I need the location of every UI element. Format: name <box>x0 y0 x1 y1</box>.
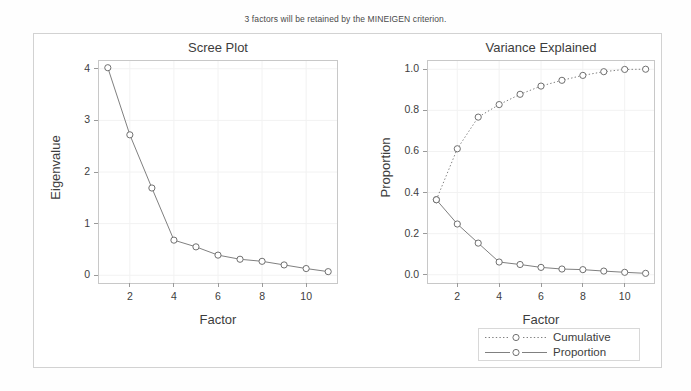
y-tick-label: 0.0 <box>375 268 419 280</box>
y-tick-mark <box>423 274 427 275</box>
mineigen-note: 3 factors will be retained by the MINEIG… <box>0 14 691 24</box>
y-tick-label: 0.2 <box>375 227 419 239</box>
x-tick-label: 4 <box>154 290 194 302</box>
x-tick-label: 4 <box>479 290 519 302</box>
legend-item-proportion[interactable]: Proportion <box>479 345 641 360</box>
y-tick-label: 4 <box>46 62 90 74</box>
scree-x-axis-label: Factor <box>98 312 338 327</box>
variance-x-axis-label: Factor <box>427 312 655 327</box>
x-tick-label: 2 <box>437 290 477 302</box>
x-tick-label: 6 <box>198 290 238 302</box>
y-tick-mark <box>423 233 427 234</box>
variance-plot-area <box>427 60 655 284</box>
legend-symbol-cumulative <box>485 330 547 345</box>
y-tick-label: 3 <box>46 113 90 125</box>
y-tick-mark <box>423 69 427 70</box>
variance-y-axis-label: Proportion <box>378 108 393 228</box>
legend-label-proportion: Proportion <box>553 345 606 360</box>
x-tick-label: 10 <box>286 290 326 302</box>
legend-symbol-proportion <box>485 345 547 360</box>
x-tick-label: 2 <box>110 290 150 302</box>
y-tick-mark <box>423 192 427 193</box>
y-tick-label: 0 <box>46 268 90 280</box>
x-tick-mark <box>262 283 263 287</box>
y-tick-mark <box>94 223 98 224</box>
y-tick-label: 1.0 <box>375 62 419 74</box>
y-tick-mark <box>94 275 98 276</box>
x-tick-mark <box>173 283 174 287</box>
x-tick-mark <box>624 283 625 287</box>
scree-plot-title: Scree Plot <box>98 40 338 55</box>
figure-canvas: 3 factors will be retained by the MINEIG… <box>0 0 691 391</box>
x-tick-label: 8 <box>563 290 603 302</box>
legend-item-cumulative[interactable]: Cumulative <box>479 330 641 345</box>
y-tick-mark <box>423 151 427 152</box>
x-tick-label: 6 <box>521 290 561 302</box>
x-tick-label: 8 <box>242 290 282 302</box>
x-tick-mark <box>499 283 500 287</box>
scree-plot-area <box>98 60 338 284</box>
y-tick-mark <box>94 120 98 121</box>
y-tick-mark <box>94 172 98 173</box>
variance-plot-title: Variance Explained <box>427 40 655 55</box>
x-tick-mark <box>218 283 219 287</box>
x-tick-mark <box>457 283 458 287</box>
y-tick-label: 1 <box>46 217 90 229</box>
y-tick-label: 0.6 <box>375 144 419 156</box>
x-tick-mark <box>306 283 307 287</box>
y-tick-label: 0.4 <box>375 186 419 198</box>
x-tick-mark <box>582 283 583 287</box>
x-tick-label: 10 <box>605 290 645 302</box>
x-tick-mark <box>541 283 542 287</box>
variance-legend: Cumulative Proportion <box>478 328 640 361</box>
x-tick-mark <box>129 283 130 287</box>
variance-plot-svg <box>428 61 654 283</box>
scree-plot-svg <box>99 61 337 283</box>
y-tick-mark <box>94 68 98 69</box>
y-tick-label: 0.8 <box>375 103 419 115</box>
y-tick-label: 2 <box>46 165 90 177</box>
y-tick-mark <box>423 110 427 111</box>
legend-label-cumulative: Cumulative <box>553 330 611 345</box>
